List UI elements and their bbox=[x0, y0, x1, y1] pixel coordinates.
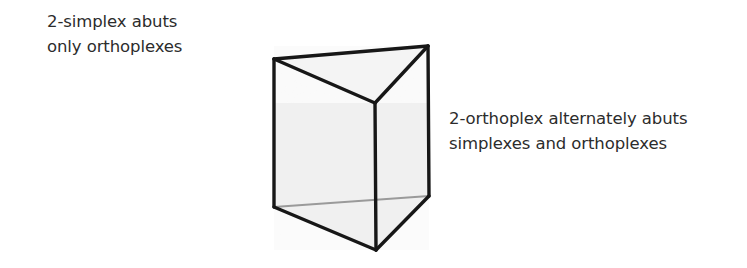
prism-edge-vertical-right bbox=[428, 46, 429, 196]
orthoplex-annotation-line-1: 2-orthoplex alternately abuts bbox=[449, 106, 687, 131]
simplex-annotation-line-2: only orthoplexes bbox=[47, 34, 182, 59]
orthoplex-annotation-line-2: simplexes and orthoplexes bbox=[449, 131, 687, 156]
prism-edge-vertical-center bbox=[375, 103, 376, 250]
simplex-annotation: 2-simplex abuts only orthoplexes bbox=[47, 9, 182, 59]
orthoplex-annotation: 2-orthoplex alternately abuts simplexes … bbox=[449, 106, 687, 156]
figure-canvas: 2-simplex abuts only orthoplexes 2-ortho… bbox=[0, 0, 747, 268]
simplex-annotation-line-1: 2-simplex abuts bbox=[47, 9, 182, 34]
